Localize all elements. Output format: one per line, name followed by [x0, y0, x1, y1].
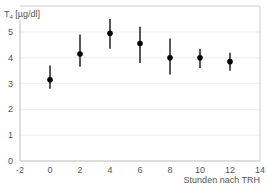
x-tick-label: 14 [255, 165, 265, 175]
data-point [167, 55, 173, 61]
data-point [77, 51, 83, 57]
y-tick-label: 0 [8, 156, 13, 166]
x-tick-label: -2 [16, 165, 24, 175]
data-point [227, 59, 233, 65]
y-tick-label: 1 [8, 130, 13, 140]
x-tick-label: 6 [137, 165, 142, 175]
y-tick-label: 3 [8, 79, 13, 89]
x-axis-label: Stunden nach TRH [184, 175, 260, 185]
data-point [107, 30, 113, 36]
x-tick-label: 0 [47, 165, 52, 175]
y-tick-label: 2 [8, 104, 13, 114]
x-tick-label: 4 [107, 165, 112, 175]
y-tick-label: 5 [8, 27, 13, 37]
data-point [137, 41, 143, 47]
data-point [197, 55, 203, 61]
y-axis-label: T4 [µg/dl] [4, 9, 40, 20]
x-tick-label: 12 [225, 165, 235, 175]
x-tick-label: 8 [167, 165, 172, 175]
x-tick-label: 2 [77, 165, 82, 175]
x-tick-label: 10 [195, 165, 205, 175]
data-point [47, 77, 53, 83]
t4-errorbar-chart: 012345-202468101214T4 [µg/dl]Stunden nac… [0, 0, 267, 185]
series-t4 [47, 19, 233, 89]
y-tick-label: 4 [8, 53, 13, 63]
